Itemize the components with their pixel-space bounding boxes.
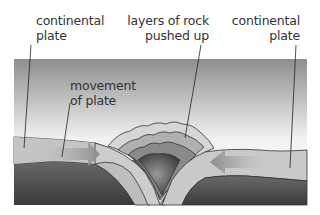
label-line: plate bbox=[225, 28, 300, 43]
label-line: of plate bbox=[70, 93, 136, 108]
label-line: continental bbox=[225, 13, 300, 28]
label-rock-layers: layers of rock pushed up bbox=[116, 13, 209, 43]
label-line: pushed up bbox=[116, 28, 209, 43]
label-right-plate: continental plate bbox=[225, 13, 300, 43]
label-line: layers of rock bbox=[116, 13, 209, 28]
label-line: continental bbox=[36, 13, 104, 28]
label-left-plate: continental plate bbox=[36, 13, 104, 43]
label-movement: movement of plate bbox=[70, 78, 136, 108]
label-line: plate bbox=[36, 28, 104, 43]
label-line: movement bbox=[70, 78, 136, 93]
